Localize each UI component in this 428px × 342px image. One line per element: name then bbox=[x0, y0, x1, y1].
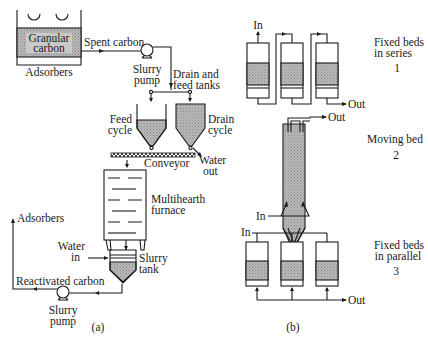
granular-carbon-label-2: carbon bbox=[33, 42, 65, 54]
pump-icon bbox=[141, 44, 153, 56]
adsorber-tank: Granular carbon Adsorbers bbox=[17, 10, 81, 78]
series-out-label: Out bbox=[348, 98, 366, 110]
svg-text:cycle: cycle bbox=[108, 124, 132, 137]
moving-bed: Out In Moving bed 2 bbox=[256, 111, 423, 250]
multihearth-furnace: Multihearth furnace bbox=[104, 170, 206, 250]
reactivated-carbon-label: Reactivated carbon bbox=[16, 275, 105, 287]
slurry-pump-bottom: Slurry pump bbox=[49, 286, 78, 328]
flow-arrow-icon bbox=[99, 49, 104, 53]
series-in-label: In bbox=[253, 19, 263, 31]
conveyor: Conveyor bbox=[111, 153, 195, 170]
svg-text:feed tanks: feed tanks bbox=[173, 79, 220, 91]
svg-text:1: 1 bbox=[394, 62, 400, 74]
slurry-pump-top: Slurry pump Drain and feed tanks bbox=[133, 44, 221, 91]
feed-cycle-tank: Feed cycle bbox=[108, 104, 166, 150]
caption-a: (a) bbox=[92, 321, 105, 334]
parallel-in-label: In bbox=[241, 226, 251, 238]
carbon-adsorption-diagram: Granular carbon Adsorbers Spent carbon S… bbox=[0, 0, 428, 342]
svg-text:in parallel: in parallel bbox=[375, 250, 421, 263]
pump-icon bbox=[57, 286, 69, 298]
svg-text:pump: pump bbox=[50, 315, 76, 328]
svg-text:Moving bed: Moving bed bbox=[367, 133, 423, 146]
svg-text:tank: tank bbox=[139, 263, 159, 275]
flow-arrow-icon bbox=[33, 287, 37, 291]
nozzle-icon bbox=[28, 14, 40, 20]
svg-text:2: 2 bbox=[393, 149, 399, 161]
adsorbers-return-label: Adsorbers bbox=[17, 212, 65, 224]
adsorbers-label: Adsorbers bbox=[25, 66, 73, 78]
svg-text:in: in bbox=[71, 251, 80, 263]
svg-text:furnace: furnace bbox=[151, 204, 185, 216]
nozzle-icon bbox=[56, 14, 68, 20]
fixed-beds-series: In Out Fixed beds in series 1 bbox=[247, 19, 425, 110]
caption-b: (b) bbox=[286, 321, 300, 334]
svg-text:pump: pump bbox=[134, 74, 160, 87]
moving-out-label: Out bbox=[328, 111, 346, 123]
moving-in-label: In bbox=[256, 210, 266, 222]
svg-text:in series: in series bbox=[374, 47, 413, 59]
panel-b: In Out Fixed beds in series 1 bbox=[241, 19, 425, 334]
fixed-beds-parallel: In Out Fixed beds in parallel 3 bbox=[241, 226, 425, 306]
panel-a: Granular carbon Adsorbers Spent carbon S… bbox=[11, 10, 234, 334]
flow-arrow-icon bbox=[95, 291, 99, 295]
svg-text:cycle: cycle bbox=[208, 124, 232, 137]
svg-text:3: 3 bbox=[393, 265, 399, 277]
svg-text:out: out bbox=[203, 165, 219, 177]
conveyor-label: Conveyor bbox=[144, 157, 190, 170]
parallel-out-label: Out bbox=[348, 294, 366, 306]
spent-carbon-label: Spent carbon bbox=[84, 36, 145, 49]
